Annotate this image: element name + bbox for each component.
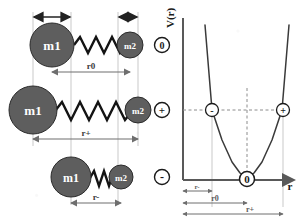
chart-dimension-label-r-minus: r- <box>194 183 200 191</box>
state-marker-zero-glyph: 0 <box>160 40 165 51</box>
mass-m1-label-compressed: m1 <box>63 171 79 185</box>
chart-dimension-label-r-plus: r+ <box>246 205 255 214</box>
mass-m2-label-stretched: m2 <box>132 106 144 116</box>
mass-m2-label-equilibrium: m2 <box>124 41 136 51</box>
mass-m1-label-stretched: m1 <box>24 103 41 118</box>
state-marker-plus: + <box>155 103 170 118</box>
mass-m2-label-compressed: m2 <box>115 173 127 183</box>
chart-dimension-label-r-zero: r0 <box>211 194 219 203</box>
dimension-label-r-minus: r- <box>93 192 100 202</box>
x-axis-label: r <box>288 180 293 192</box>
y-axis-label: V(r) <box>164 8 177 28</box>
state-marker-plus-glyph: + <box>159 104 165 116</box>
minimum-glyph: 0 <box>244 173 250 185</box>
curve-annotation-turning-left: - <box>206 104 219 117</box>
state-marker-zero: 0 <box>155 38 170 53</box>
physics-figure: m1 m2 r0 m1 m2 r+ m1 <box>0 0 305 222</box>
dimension-label-r-plus: r+ <box>81 128 90 138</box>
curve-annotation-turning-right: + <box>277 104 290 117</box>
turning-left-glyph: - <box>210 105 213 116</box>
figure-canvas: m1 m2 r0 m1 m2 r+ m1 <box>0 0 305 222</box>
turning-right-glyph: + <box>280 105 286 116</box>
dimension-label-r0: r0 <box>87 61 96 71</box>
curve-annotation-minimum: 0 <box>240 172 255 187</box>
mass-m1-label-equilibrium: m1 <box>43 38 60 53</box>
state-marker-minus-glyph: - <box>160 170 164 184</box>
state-marker-minus: - <box>155 170 170 185</box>
